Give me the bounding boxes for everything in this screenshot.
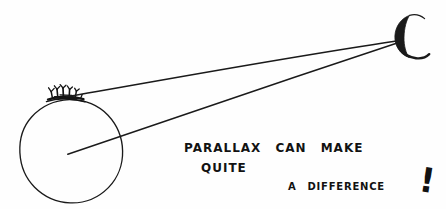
paper-background <box>0 0 446 209</box>
diagram-canvas <box>0 0 446 209</box>
parallax-figure: Parallax can make Quite a difference ! <box>0 0 446 209</box>
